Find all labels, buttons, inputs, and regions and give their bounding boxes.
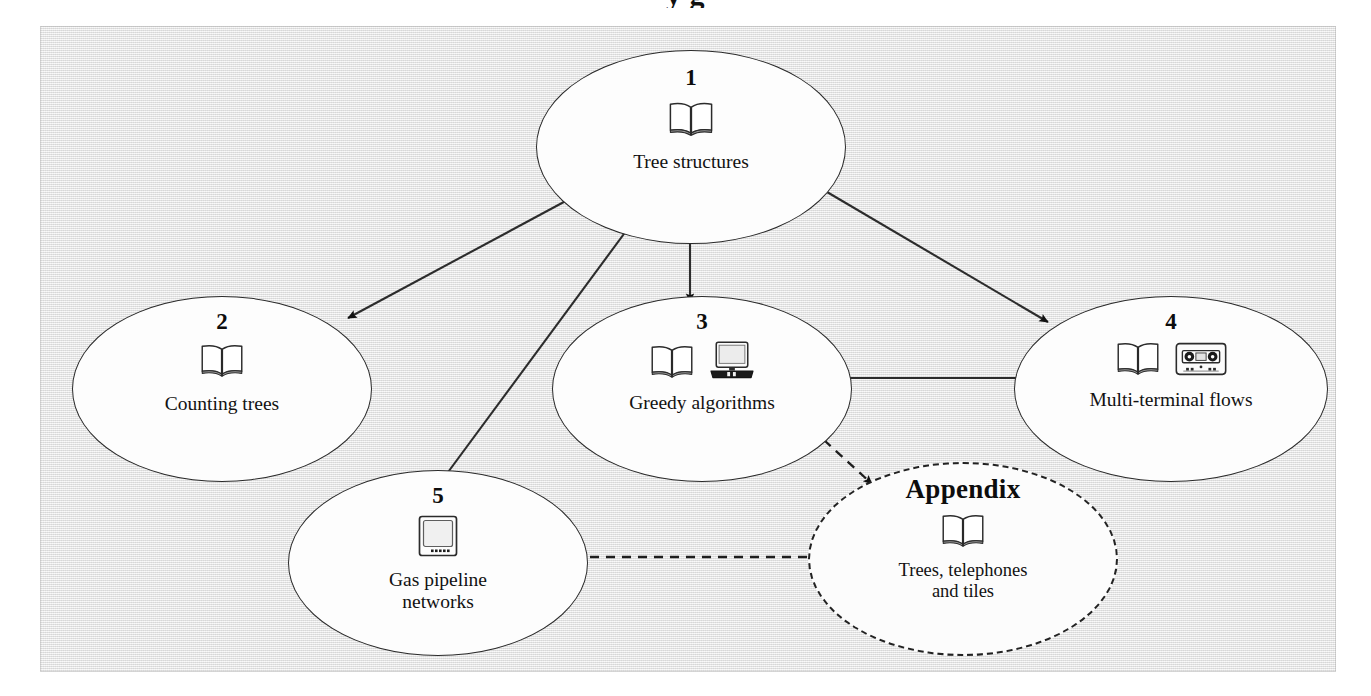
laptop-icon [708,339,756,381]
cassette-tape-icon [1174,340,1228,378]
node-label: Greedy algorithms [629,392,775,414]
icon-row [415,513,461,559]
node-tree-structures[interactable]: 1 Tree structures [536,50,846,244]
book-icon [666,99,716,139]
icon-row [939,511,987,550]
book-icon [939,511,987,550]
cropped-caption-text: y g [0,0,1371,8]
node-number: 1 [685,66,697,89]
node-number: 4 [1165,310,1177,333]
node-number: 3 [696,310,708,333]
node-multi-terminal-flows[interactable]: 4 [1014,296,1328,482]
book-icon [648,342,696,381]
node-label: Tree structures [633,151,749,173]
figure-page: y g 1 [0,0,1371,696]
node-label: Trees, telephones and tiles [899,560,1028,601]
node-counting-trees[interactable]: 2 Counting trees [72,296,372,482]
book-icon [1114,339,1162,378]
icon-row [666,99,716,139]
node-gas-pipeline-networks[interactable]: 5 Gas pipeline networks [288,470,588,656]
monitor-icon [415,513,461,559]
node-number: 2 [216,310,228,333]
icon-row [198,341,246,380]
node-label: Counting trees [165,393,279,415]
node-greedy-algorithms[interactable]: 3 Greedy algorithms [552,296,852,482]
book-icon [198,341,246,380]
node-appendix[interactable]: Appendix Trees, telephones and tiles [808,462,1118,656]
icon-row [1114,339,1228,378]
node-label: Multi-terminal flows [1089,389,1252,411]
icon-row [648,339,756,381]
node-label: Gas pipeline networks [389,569,487,613]
node-number: Appendix [906,476,1021,503]
node-number: 5 [432,484,444,507]
